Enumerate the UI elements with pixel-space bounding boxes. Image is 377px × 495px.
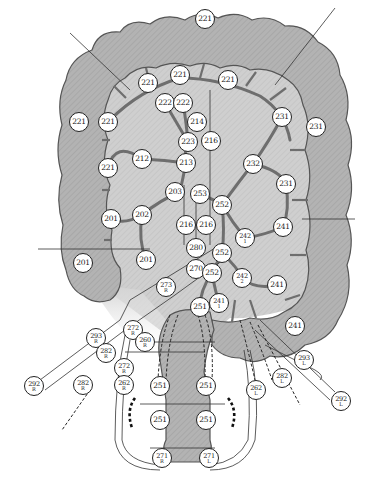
lymph-node-221: 221 bbox=[69, 112, 89, 132]
node-number: 252 bbox=[215, 201, 228, 209]
lymph-node-282-r: 282R bbox=[96, 343, 116, 363]
lymph-node-216: 216 bbox=[201, 131, 221, 151]
node-number: 221 bbox=[72, 118, 85, 126]
node-number: 241 bbox=[288, 322, 301, 330]
lymph-node-251: 251 bbox=[196, 410, 216, 430]
lymph-node-222: 222 bbox=[173, 93, 193, 113]
lymph-node-252: 252 bbox=[202, 263, 222, 283]
node-side-marker: 1 bbox=[243, 239, 246, 244]
lymph-node-222: 222 bbox=[155, 93, 175, 113]
node-number: 216 bbox=[204, 137, 217, 145]
lymph-node-221: 221 bbox=[195, 9, 215, 29]
node-number: 252 bbox=[215, 249, 228, 257]
node-number: 202 bbox=[135, 211, 148, 219]
node-number: 222 bbox=[176, 99, 189, 107]
lymph-node-252: 252 bbox=[212, 243, 232, 263]
node-number: 221 bbox=[101, 118, 114, 126]
lymph-node-292-l: 292L bbox=[331, 391, 351, 411]
lymph-node-201: 201 bbox=[136, 250, 156, 270]
lymph-node-282-r: 282R bbox=[73, 375, 93, 395]
lymph-node-293-l: 293L bbox=[294, 350, 314, 370]
lymph-node-223: 223 bbox=[178, 132, 198, 152]
lymph-node-273-r: 273R bbox=[156, 277, 176, 297]
lymph-node-282-l: 282L bbox=[272, 368, 292, 388]
lymph-node-292-r: 292R bbox=[24, 376, 44, 396]
node-number: 231 bbox=[275, 113, 288, 121]
lymph-node-221: 221 bbox=[170, 65, 190, 85]
lymph-node-212: 212 bbox=[132, 149, 152, 169]
node-side-marker: R bbox=[122, 369, 126, 374]
node-side-marker: R bbox=[94, 339, 98, 344]
lymph-node-271-l: 271L bbox=[199, 448, 219, 468]
node-number: 216 bbox=[179, 221, 192, 229]
node-side-marker: R bbox=[164, 288, 168, 293]
node-number: 270 bbox=[189, 265, 202, 273]
node-side-marker: R bbox=[104, 354, 108, 359]
node-side-marker: R bbox=[122, 386, 126, 391]
lymph-node-213: 213 bbox=[176, 153, 196, 173]
lymph-node-216: 216 bbox=[196, 215, 216, 235]
node-number: 201 bbox=[139, 256, 152, 264]
node-number: 251 bbox=[199, 382, 212, 390]
node-side-marker: L bbox=[280, 379, 283, 384]
lymph-node-241: 241 bbox=[267, 275, 287, 295]
node-number: 251 bbox=[153, 382, 166, 390]
lymph-node-253: 253 bbox=[190, 184, 210, 204]
node-number: 203 bbox=[168, 188, 181, 196]
node-number: 231 bbox=[279, 180, 292, 188]
node-side-marker: L bbox=[254, 391, 257, 396]
node-number: 201 bbox=[76, 259, 89, 267]
lymph-node-252: 252 bbox=[212, 195, 232, 215]
node-number: 216 bbox=[199, 221, 212, 229]
lymph-node-241: 241 bbox=[273, 217, 293, 237]
lymph-node-221: 221 bbox=[98, 158, 118, 178]
lymph-node-232: 232 bbox=[243, 154, 263, 174]
lymph-node-231: 231 bbox=[272, 107, 292, 127]
node-side-marker: R bbox=[131, 331, 135, 336]
lymph-node-251: 251 bbox=[196, 376, 216, 396]
node-number: 221 bbox=[173, 71, 186, 79]
lymph-node-214: 214 bbox=[187, 112, 207, 132]
colon-lymph-node-diagram: 2212212212212222222142162232212212312312… bbox=[0, 0, 377, 495]
lymph-node-201: 201 bbox=[73, 253, 93, 273]
node-side-marker: R bbox=[143, 343, 147, 348]
lymph-node-221: 221 bbox=[218, 70, 238, 90]
node-number: 252 bbox=[205, 269, 218, 277]
lymph-node-251: 251 bbox=[150, 376, 170, 396]
node-number: 212 bbox=[135, 155, 148, 163]
lymph-node-231: 231 bbox=[306, 117, 326, 137]
node-number: 201 bbox=[104, 215, 117, 223]
node-number: 241 bbox=[276, 223, 289, 231]
node-number: 221 bbox=[101, 164, 114, 172]
node-number: 214 bbox=[190, 118, 203, 126]
lymph-node-221: 221 bbox=[98, 112, 118, 132]
node-side-marker: R bbox=[81, 386, 85, 391]
lymph-node-262-l: 262L bbox=[246, 380, 266, 400]
node-number: 221 bbox=[198, 15, 211, 23]
node-number: 251 bbox=[199, 416, 212, 424]
node-number: 253 bbox=[193, 190, 206, 198]
lymph-node-242-1: 2421 bbox=[235, 228, 255, 248]
node-side-marker: L bbox=[302, 361, 305, 366]
lymph-node-251: 251 bbox=[190, 297, 210, 317]
node-side-marker: 1 bbox=[217, 304, 220, 309]
node-side-marker: R bbox=[32, 387, 36, 392]
node-number: 251 bbox=[193, 303, 206, 311]
lymph-node-202: 202 bbox=[132, 205, 152, 225]
node-number: 221 bbox=[141, 79, 154, 87]
lymph-node-241: 241 bbox=[285, 316, 305, 336]
lymph-node-271-r: 271R bbox=[152, 448, 172, 468]
lymph-node-203: 203 bbox=[165, 182, 185, 202]
node-side-marker: R bbox=[160, 459, 164, 464]
lymph-node-216: 216 bbox=[176, 215, 196, 235]
node-number: 231 bbox=[309, 123, 322, 131]
node-number: 221 bbox=[221, 76, 234, 84]
node-side-marker: L bbox=[207, 459, 210, 464]
lymph-node-231: 231 bbox=[276, 174, 296, 194]
node-number: 241 bbox=[270, 281, 283, 289]
node-number: 222 bbox=[158, 99, 171, 107]
lymph-node-251: 251 bbox=[150, 410, 170, 430]
lymph-node-262-r: 262R bbox=[114, 375, 134, 395]
lymph-node-221: 221 bbox=[138, 73, 158, 93]
lymph-node-242-2: 2422 bbox=[232, 268, 252, 288]
